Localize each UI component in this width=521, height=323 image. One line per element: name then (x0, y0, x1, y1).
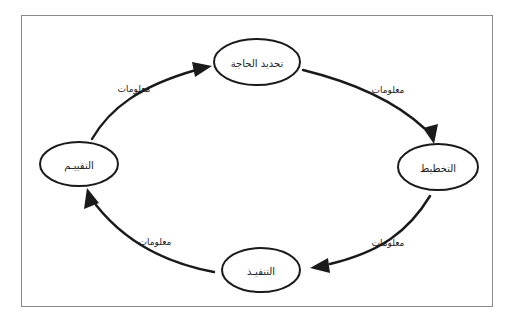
node-implementation-label: التنفيـذ (247, 266, 275, 277)
edge-label-implementation-to-evaluation: معلومات (139, 237, 172, 247)
edge-need-to-planning (303, 70, 438, 144)
edge-planning-to-implementation-line (330, 196, 430, 264)
edge-label-planning-to-implementation: معلومات (372, 238, 405, 248)
edge-need-to-planning-line (303, 70, 424, 128)
arrow-head-into-need (192, 62, 212, 77)
node-planning-label: التخطيط (420, 163, 456, 174)
arrow-head-into-planning (423, 124, 438, 144)
arrow-head-into-implementation (310, 258, 330, 273)
edge-evaluation-to-need-line (92, 70, 196, 139)
node-planning[interactable]: التخطيط (398, 144, 478, 190)
node-need-label: تحديد الحاجة (231, 58, 284, 69)
edge-planning-to-implementation (310, 196, 430, 273)
edge-label-evaluation-to-need: معلومات (118, 84, 151, 94)
node-evaluation-label: التقييـم (64, 160, 94, 172)
edge-evaluation-to-need (92, 62, 212, 139)
cycle-diagram: تحديد الحاجة التخطيط التنفيـذ التقييـم م… (0, 0, 521, 323)
cycle-diagram-canvas: تحديد الحاجة التخطيط التنفيـذ التقييـم م… (0, 0, 521, 323)
node-implementation[interactable]: التنفيـذ (222, 248, 300, 292)
edge-label-need-to-planning: معلومات (372, 85, 405, 95)
node-evaluation[interactable]: التقييـم (40, 142, 118, 186)
node-need[interactable]: تحديد الحاجة (214, 39, 300, 85)
edge-implementation-to-evaluation (84, 188, 214, 272)
